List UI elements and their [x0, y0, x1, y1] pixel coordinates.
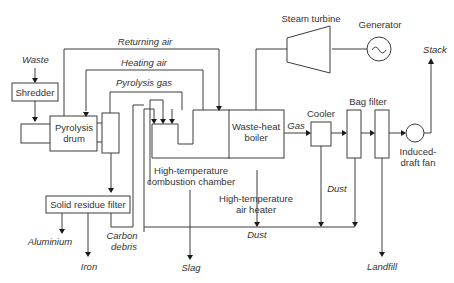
waste-heat-boiler-label-1: Waste-heat: [232, 121, 281, 132]
arrow-shredder-out: [32, 117, 38, 122]
carbon-debris-label-1: Carbon: [106, 230, 137, 241]
arrow-chamber-3: [169, 119, 175, 124]
arrow-bag-fan: [401, 130, 406, 136]
returning-air-label: Returning air: [118, 36, 173, 47]
arrow-waste: [32, 78, 38, 83]
generator-circle: [367, 37, 391, 61]
pyrolysis-gas-line: [110, 92, 182, 114]
carbon-debris-label-2: debris: [111, 241, 137, 252]
induced-draft-fan-label-1: Induced-: [400, 146, 437, 157]
waste-label: Waste: [22, 54, 49, 65]
bag-filter-2-box: [375, 110, 389, 158]
steam-line: [256, 49, 287, 110]
dust-cooler-label: Dust: [327, 183, 347, 194]
arrow-iron: [85, 252, 91, 257]
bag-filter-label: Bag filter: [349, 96, 387, 107]
solid-residue-filter-label: Solid residue filter: [50, 199, 126, 210]
arrowheads: [32, 58, 434, 260]
combustion-chamber-box: [152, 110, 230, 158]
waste-heat-boiler-label-2: boiler: [244, 132, 267, 143]
combustion-chamber-label-1: High-temperature: [154, 165, 228, 176]
iron-label: Iron: [81, 261, 97, 272]
slag-label: Slag: [181, 262, 201, 273]
arrow-aluminium: [59, 229, 65, 234]
arrow-cooler-bag: [342, 130, 347, 136]
generator-label: Generator: [359, 19, 402, 30]
induced-draft-fan-label-2: draft fan: [401, 157, 436, 168]
drum-outlet-housing: [102, 113, 119, 153]
induced-draft-fan-circle: [406, 124, 424, 142]
air-heater-label-2: air heater: [236, 204, 276, 215]
aluminium-label: Aluminium: [27, 236, 72, 247]
arrow-slag: [187, 255, 193, 260]
landfill-label: Landfill: [367, 261, 398, 272]
stack-line: [419, 63, 431, 133]
arrow-chamber-2: [160, 119, 166, 124]
arrow-dust-cooler: [318, 222, 324, 227]
heating-air-label: Heating air: [121, 57, 168, 68]
stack-label: Stack: [423, 44, 448, 55]
arrow-bag-bag: [370, 130, 375, 136]
pyrolysis-drum-label-1: Pyrolysis: [55, 122, 93, 133]
arrow-dust-bag: [352, 222, 358, 227]
arrow-residue-filter: [108, 188, 114, 193]
pyrolysis-gas-label: Pyrolysis gas: [116, 77, 172, 88]
cooler-label: Cooler: [307, 108, 335, 119]
shredder-label: Shredder: [15, 87, 54, 98]
pyrolysis-drum-label-2: drum: [63, 133, 85, 144]
steam-turbine-label: Steam turbine: [281, 13, 340, 24]
bag-filter-1-box: [347, 110, 361, 158]
arrow-gas-cooler: [306, 130, 311, 136]
cooler-box: [311, 122, 331, 146]
drum-feed-hopper: [21, 124, 51, 143]
arrow-landfill: [379, 252, 385, 257]
gas-label: Gas: [287, 120, 305, 131]
arrow-stack: [428, 58, 434, 64]
air-heater-label-1: High-temperature: [219, 193, 293, 204]
arrow-dust-air-heater: [254, 222, 260, 227]
dust-bottom-label: Dust: [247, 229, 267, 240]
arrow-chamber-1: [151, 119, 157, 124]
process-flow-diagram: Waste Shredder Pyrolysis drum Solid resi…: [0, 0, 454, 283]
combustion-chamber-label-2: combustion chamber: [147, 176, 235, 187]
steam-turbine-shape: [287, 26, 330, 73]
